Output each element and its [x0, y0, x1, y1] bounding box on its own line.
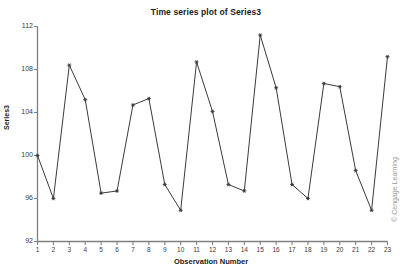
marker-center — [53, 198, 55, 200]
x-tick-label: 19 — [316, 246, 332, 253]
marker-center — [355, 170, 357, 172]
x-tick-label: 2 — [45, 246, 61, 253]
axes — [34, 27, 388, 246]
data-series-series3 — [36, 33, 390, 212]
x-tick-label: 23 — [380, 246, 396, 253]
y-tick-label: 96 — [9, 194, 33, 201]
x-tick-label: 8 — [141, 246, 157, 253]
marker-center — [132, 104, 134, 106]
y-tick-label: 104 — [9, 108, 33, 115]
x-tick-label: 11 — [189, 246, 205, 253]
marker-center — [212, 111, 214, 113]
marker-center — [68, 64, 70, 66]
marker-center — [339, 86, 341, 88]
x-tick-label: 20 — [332, 246, 348, 253]
marker-center — [243, 190, 245, 192]
marker-center — [323, 83, 325, 85]
y-tick-label: 112 — [9, 22, 33, 29]
x-tick-label: 17 — [284, 246, 300, 253]
x-tick-label: 9 — [157, 246, 173, 253]
marker-center — [387, 56, 389, 58]
marker-center — [307, 198, 309, 200]
marker-center — [291, 184, 293, 186]
marker-center — [259, 34, 261, 36]
y-tick-label: 100 — [9, 151, 33, 158]
x-tick-label: 3 — [61, 246, 77, 253]
x-tick-label: 7 — [125, 246, 141, 253]
plot-area — [0, 0, 412, 272]
marker-center — [37, 155, 39, 157]
x-tick-label: 5 — [93, 246, 109, 253]
marker-center — [116, 190, 118, 192]
x-tick-label: 1 — [30, 246, 46, 253]
marker-center — [275, 87, 277, 89]
series-line — [38, 35, 388, 210]
marker-center — [164, 184, 166, 186]
x-tick-label: 21 — [348, 246, 364, 253]
marker-center — [148, 98, 150, 100]
marker-center — [196, 61, 198, 63]
y-tick-label: 108 — [9, 65, 33, 72]
x-tick-label: 6 — [109, 246, 125, 253]
chart-figure: Time series plot of Series3 Series3 Obse… — [0, 0, 412, 272]
x-tick-label: 10 — [173, 246, 189, 253]
marker-center — [228, 184, 230, 186]
marker-center — [100, 192, 102, 194]
x-tick-label: 13 — [220, 246, 236, 253]
x-tick-label: 18 — [300, 246, 316, 253]
x-tick-label: 4 — [77, 246, 93, 253]
x-tick-label: 16 — [268, 246, 284, 253]
x-tick-label: 14 — [236, 246, 252, 253]
x-tick-label: 15 — [252, 246, 268, 253]
marker-center — [180, 209, 182, 211]
x-tick-label: 22 — [364, 246, 380, 253]
x-tick-label: 12 — [205, 246, 221, 253]
marker-center — [371, 209, 373, 211]
y-tick-label: 92 — [9, 237, 33, 244]
marker-center — [84, 99, 86, 101]
